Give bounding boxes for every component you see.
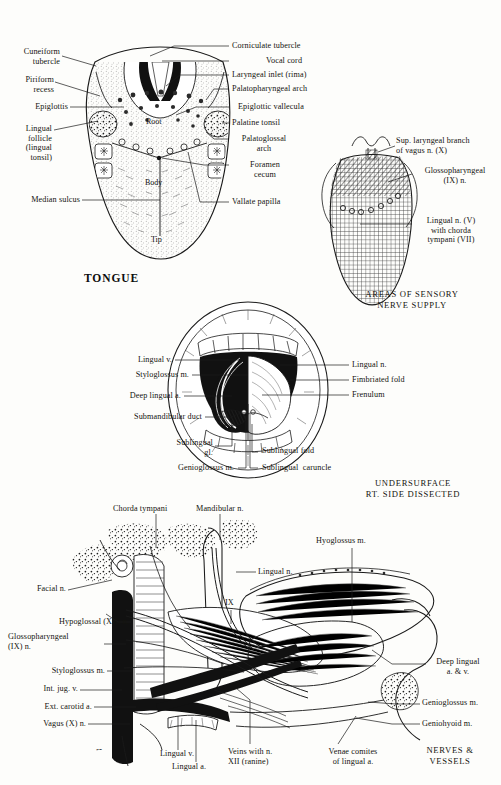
anatomy-plate: Cuneiform tubercle Piriform recess Epigl… bbox=[0, 0, 501, 785]
label-vallate-papilla: Vallate papilla bbox=[232, 197, 281, 207]
label-root: Root bbox=[146, 117, 162, 126]
label-laryngeal-inlet: Laryngeal inlet (rima) bbox=[232, 70, 307, 80]
label-ext-carotid-a: Ext. carotid a. bbox=[8, 702, 92, 712]
label-lingual-v-under: Lingual v. bbox=[82, 355, 172, 365]
label-epiglottis: Epiglottis bbox=[0, 102, 68, 112]
label-geniohyoid-m: Geniohyoid m. bbox=[422, 719, 472, 729]
label-lingual-n-under: Lingual n. bbox=[352, 360, 387, 370]
label-sublingual-fold: Sublingual fold bbox=[262, 446, 314, 456]
label-int-jug-v: Int. jug. v. bbox=[8, 684, 78, 694]
label-cuneiform-tubercle: Cuneiform tubercle bbox=[0, 47, 60, 66]
label-hypoglossal-xii-n: Hypoglossal (XII) n. bbox=[8, 617, 129, 627]
label-tip: Tip bbox=[151, 235, 162, 244]
label-lingual-v-nerves: Lingual v. bbox=[160, 749, 194, 759]
label-genioglossus-m-nerves: Genioglossus m. bbox=[422, 698, 478, 708]
figure-nerves-vessels-artwork bbox=[72, 518, 437, 766]
label-deep-lingual-a-v: Deep lingual a. & v. bbox=[428, 657, 488, 676]
label-lingual-a: Lingual a. bbox=[172, 762, 206, 772]
label-fimbriated-fold: Fimbriated fold bbox=[352, 375, 405, 385]
label-frenulum: Frenulum bbox=[352, 390, 385, 400]
label-ix: IX bbox=[225, 598, 234, 608]
label-lingual-follicle: Lingual follicle (lingual tonsil) bbox=[0, 124, 52, 162]
label-palatoglossal-arch: Palatoglossal arch bbox=[232, 134, 296, 153]
label-glossopharyngeal-ix: Glossopharyngeal (IX) n. bbox=[414, 166, 496, 185]
label-chorda-tympani: Chorda tympani bbox=[113, 504, 167, 514]
label-vagus-x-n: Vagus (X) n. bbox=[8, 719, 86, 729]
figure-dorsum-artwork bbox=[54, 36, 240, 265]
label-veins-with-n-xii-ranine: Veins with n. XII (ranine) bbox=[228, 747, 272, 766]
caption-nerves-and-vessels: NERVES & VESSELS bbox=[408, 745, 492, 767]
label-lingual-n-nerves: Lingual n. bbox=[258, 567, 293, 577]
label-epiglottic-vallecula: Epiglottic vallecula bbox=[238, 102, 304, 112]
label-sublingual-gl: Sublingual gl. bbox=[145, 438, 213, 457]
label-submandibular-duct: Submandibular duct bbox=[55, 412, 202, 422]
caption-areas-of-sensory-nerve-supply: AREAS OF SENSORY NERVE SUPPLY bbox=[346, 289, 478, 311]
label-facial-n: Facial n. bbox=[8, 584, 66, 594]
label-vocal-cord: Vocal cord bbox=[266, 56, 302, 66]
label-hyoglossus-m: Hyoglossus m. bbox=[316, 536, 366, 546]
label-deep-lingual-a: Deep lingual a. bbox=[70, 391, 181, 401]
caption-undersurface-rt-side-dissected: UNDERSURFACE RT. SIDE DISSECTED bbox=[338, 478, 488, 500]
label-palatopharyngeal-arch: Palatopharyngeal arch bbox=[232, 84, 307, 94]
label-sup-laryngeal-branch-vagus: Sup. laryngeal branch of vagus n. (X) bbox=[396, 136, 470, 155]
label-body: Body bbox=[145, 178, 162, 187]
figure-title-tongue: TONGUE bbox=[84, 272, 139, 284]
artist-signature: ‐‐𝒫𝒨𝒩 bbox=[95, 744, 102, 755]
label-lingual-n-chorda-tympani: Lingual n. (V) with chorda tympani (VII) bbox=[414, 216, 488, 245]
label-genioglossus-m-under: Genioglossus m. bbox=[120, 463, 234, 473]
label-sublingual-caruncle: Sublingual caruncle bbox=[262, 463, 331, 473]
label-piriform-recess: Piriform recess bbox=[0, 75, 54, 94]
label-foramen-cecum: Foramen cecum bbox=[240, 160, 290, 179]
label-mandibular-n: Mandibular n. bbox=[196, 504, 244, 514]
label-venae-comites-of-lingual-a: Venae comites of lingual a. bbox=[318, 747, 388, 766]
label-corniculate-tubercle: Corniculate tubercle bbox=[232, 41, 301, 51]
label-median-sulcus: Median sulcus bbox=[0, 195, 80, 205]
label-styloglossus-m-under: Styloglossus m. bbox=[70, 370, 189, 380]
label-glossopharyngeal-ix-n: Glossopharyngeal (IX) n. bbox=[8, 632, 69, 651]
label-styloglossus-m-nerves: Styloglossus m. bbox=[8, 666, 105, 676]
label-palatine-tonsil: Palatine tonsil bbox=[232, 118, 280, 128]
